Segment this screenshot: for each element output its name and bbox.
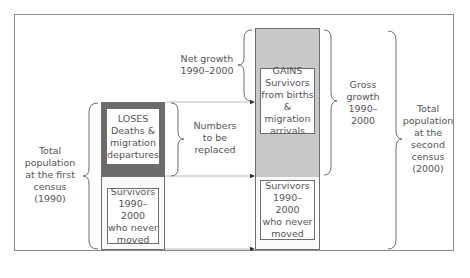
brace-total-1990 (83, 103, 98, 249)
label-line: growth (338, 91, 388, 103)
brace-numbers-replaced (171, 103, 184, 176)
label-line: Net growth (176, 53, 238, 65)
label-line: replaced (184, 144, 246, 156)
label-line: second (400, 139, 456, 151)
label-line: at the first (18, 169, 82, 181)
label-line: to be (184, 132, 246, 144)
label-line: 1990–2000 (176, 65, 238, 77)
label-net-growth: Net growth 1990–2000 (176, 53, 238, 77)
label-total-second-census: Total population at the second census (2… (400, 103, 456, 175)
label-line: Numbers (184, 120, 246, 132)
label-line: (2000) (400, 163, 456, 175)
label-total-first-census: Total population at the first census (19… (18, 145, 82, 205)
label-line: population (18, 157, 82, 169)
label-line: at the (400, 127, 456, 139)
label-gross-growth: Gross growth 1990–2000 (338, 79, 388, 127)
label-line: census (18, 181, 82, 193)
label-line: 1990–2000 (338, 103, 388, 127)
label-line: Total (400, 103, 456, 115)
brace-net-growth (238, 30, 252, 101)
label-line: (1990) (18, 193, 82, 205)
brace-gross-growth (324, 30, 337, 175)
label-numbers-replaced: Numbers to be replaced (184, 120, 246, 156)
label-line: Total (18, 145, 82, 157)
label-line: population (400, 115, 456, 127)
label-line: census (400, 151, 456, 163)
label-line: Gross (338, 79, 388, 91)
